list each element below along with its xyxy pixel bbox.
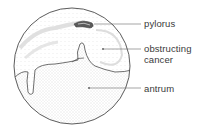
pylorus-opening	[74, 21, 93, 28]
obstructing-cancer-label-line2: cancer	[144, 55, 173, 65]
pylorus-label: pylorus	[144, 19, 175, 29]
obstructing-cancer-label-line1: obstructing	[144, 44, 192, 54]
antrum-label: antrum	[144, 84, 174, 94]
stomach-diagram	[0, 0, 208, 132]
